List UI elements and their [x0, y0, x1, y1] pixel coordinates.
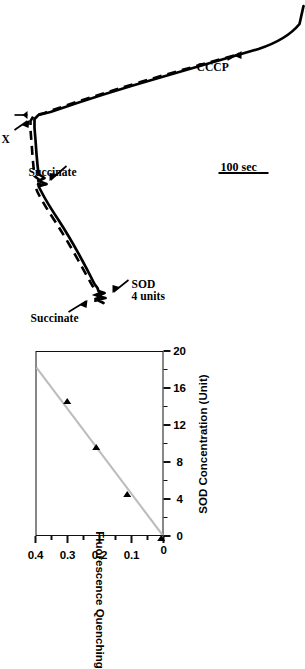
x-axis-tick-label: 0: [176, 530, 182, 542]
sod-label-line-1: SOD: [131, 278, 155, 290]
y-axis-minor-tick: [146, 536, 147, 540]
x-axis-minor-tick: [163, 406, 167, 407]
annotation-label-succinate-1: Succinate: [30, 312, 78, 324]
y-axis-tick: [130, 536, 131, 543]
annotation-label-succinate-2: Succinate: [28, 166, 76, 178]
y-axis-tick: [34, 536, 35, 543]
x-axis-tick-label: 12: [173, 419, 185, 431]
y-axis-tick-label: 0.3: [59, 549, 74, 561]
scale-bar-label: 100 sec: [220, 160, 256, 175]
x-axis-tick: [163, 424, 170, 425]
annotation-label-xanthine: X: [1, 133, 9, 145]
annotation-label-cccp: CCCP: [196, 61, 228, 73]
x-axis-tick: [163, 350, 170, 351]
data-point-marker: [63, 398, 71, 404]
y-axis-tick-label: 0.1: [123, 549, 138, 561]
x-axis-minor-tick: [163, 369, 167, 370]
calibration-inset: 04812162000.10.20.30.4 SOD Concentration…: [0, 322, 303, 644]
y-axis-tick-label: 0: [160, 544, 166, 556]
x-axis-minor-tick: [163, 443, 167, 444]
x-axis-tick: [163, 387, 170, 388]
y-axis-tick-label: 0.4: [27, 549, 42, 561]
annotation-label-sod: SOD 4 units: [131, 278, 165, 302]
x-axis-tick-label: 8: [176, 456, 182, 468]
x-axis-tick: [163, 498, 170, 499]
inset-x-axis-title: SOD Concentration (Unit): [196, 374, 208, 513]
y-axis-minor-tick: [82, 536, 83, 540]
y-axis-tick: [66, 536, 67, 543]
x-axis-minor-tick: [163, 517, 167, 518]
x-axis-tick-label: 20: [173, 345, 185, 357]
data-point-marker: [92, 445, 100, 451]
inset-y-axis-title: Fluorescence Quenching: [93, 531, 105, 668]
x-axis-minor-tick: [163, 480, 167, 481]
annotation-arrows: [14, 51, 241, 312]
trace-solid: [34, 6, 303, 303]
x-axis-tick-label: 4: [176, 493, 182, 505]
x-axis-tick-label: 16: [173, 382, 185, 394]
sod-label-line-2: 4 units: [131, 290, 165, 302]
fluorescence-trace: Succinate SOD 4 units Succinate X X/O CC…: [0, 0, 303, 326]
data-point-marker: [123, 491, 131, 497]
y-axis-minor-tick: [114, 536, 115, 540]
y-axis-minor-tick: [50, 536, 51, 540]
inset-plot-area: [35, 351, 163, 536]
fit-line: [36, 352, 162, 535]
x-axis-tick: [163, 461, 170, 462]
data-point-marker: [157, 535, 165, 541]
